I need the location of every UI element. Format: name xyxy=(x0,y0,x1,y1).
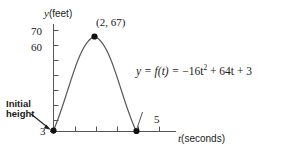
point-initial-height xyxy=(50,127,56,133)
y-axis-unit: (feet) xyxy=(49,8,72,19)
y-axis-ticks xyxy=(54,31,59,121)
parabola-curve xyxy=(54,37,137,131)
t-tick-label-5: 5 xyxy=(154,114,160,125)
y-axis-caption: y(feet) xyxy=(44,8,72,19)
y-intercept-label-3: 3 xyxy=(40,126,46,137)
equation-rest: + 64t + 3 xyxy=(207,65,252,77)
function-equation: y = f(t) = −16t2 + 64t + 3 xyxy=(136,66,252,78)
t-axis-unit: (seconds) xyxy=(181,133,225,144)
point-vertex xyxy=(91,33,97,39)
vertex-coordinate-label: (2, 67) xyxy=(96,17,125,28)
parabola-figure: y(feet) t(seconds) 70 60 3 5 (2, 67) y =… xyxy=(0,0,292,157)
initial-height-callout: Initial height xyxy=(6,99,35,119)
t-axis-caption: t(seconds) xyxy=(178,133,225,144)
t-axis-ticks xyxy=(76,127,160,132)
y-tick-label-60: 60 xyxy=(31,42,42,53)
y-tick-label-70: 70 xyxy=(31,26,42,37)
initial-height-line-2: height xyxy=(6,109,35,119)
equation-term1: −16t xyxy=(182,65,203,77)
t-intercept-leader-line xyxy=(137,112,143,129)
equation-lhs: y = f(t) = xyxy=(136,65,182,77)
